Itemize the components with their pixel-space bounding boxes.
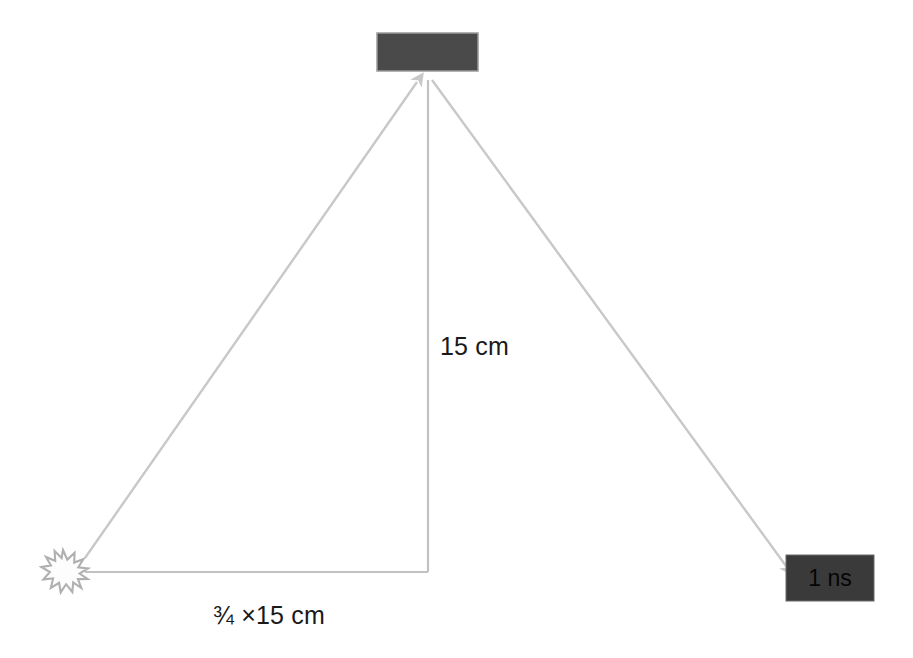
horizontal-distance-label: ¾ ×15 cm — [213, 601, 325, 630]
reflector-block — [377, 33, 478, 71]
incident-ray — [85, 82, 417, 558]
diagram-canvas: 1 ns 15 cm ¾ ×15 cm — [0, 0, 913, 658]
detector-time-label: 1 ns — [786, 555, 874, 601]
vertical-distance-label: 15 cm — [440, 332, 509, 361]
reflected-ray — [432, 80, 786, 566]
diagram-svg — [0, 0, 913, 658]
light-source-burst — [41, 550, 88, 592]
